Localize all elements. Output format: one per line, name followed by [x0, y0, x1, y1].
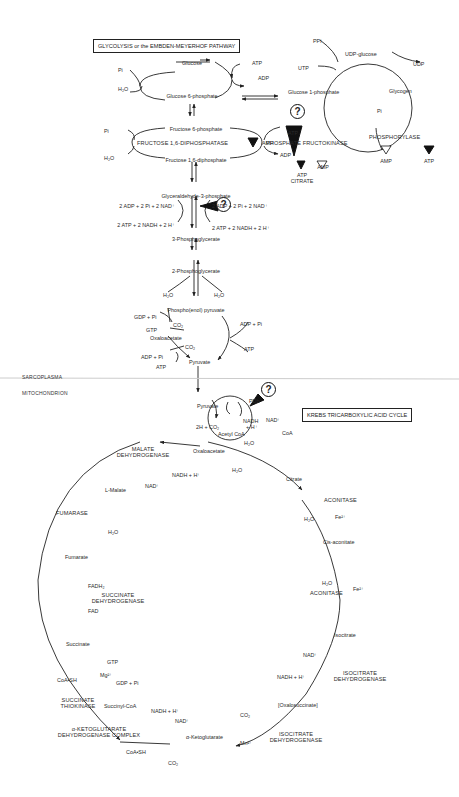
pyruvate-label: Pyruvate [197, 403, 218, 409]
nadh-label: NADH + H⁺ [277, 674, 305, 680]
g1p-label: Glucose 1-phosphate [288, 89, 339, 95]
succinate-thiokinase-enzyme: SUCCINATETHIOKINASE [61, 697, 96, 709]
phosphorylase-activator-amp: AMP [380, 158, 392, 164]
gdp-pi-label: GDP + Pi [116, 680, 139, 686]
h2o-label: H₂O [108, 529, 118, 535]
co2-label: CO₂ [173, 322, 183, 328]
fad-label: FAD [88, 608, 98, 614]
pfk-inhibitor-citrate: CITRATE [291, 178, 314, 184]
phosphorylase-enzyme: PHOSPHORYLASE [369, 134, 420, 140]
2h-co2-label: 2H + CO₂ [196, 424, 219, 430]
udp-label: UDP [413, 61, 424, 67]
fumarase-enzyme: FUMARASE [56, 510, 88, 516]
atp-label: ATP [156, 364, 166, 370]
krebs-title: KREBS TRICARBOXYLIC ACID CYCLE [302, 408, 412, 422]
h2o-label: H₂O [244, 440, 254, 446]
akg-dehydrogenase-enzyme: α-KETOGLUTARATEDEHYDROGENASE COMPLEX [58, 726, 140, 738]
aconitase-enzyme: ACONITASE [310, 590, 343, 596]
succinate-label: Succinate [66, 641, 90, 647]
adp-pi-label: ADP + Pi [141, 354, 163, 360]
l-malate-label: L-Malate [105, 487, 126, 493]
gap-right-out: 2 ATP + 2 NADH + 2 H⁺ [212, 225, 270, 231]
glycogen-label: Glycogen [389, 88, 412, 94]
h2o-label: H₂O [232, 467, 242, 473]
gtp-label: GTP [107, 659, 118, 665]
pyruvate-label: Pyruvate [189, 359, 210, 365]
gap-left-in: 2 ADP + 2 Pi + 2 NAD⁺ [119, 203, 175, 209]
cis-aconitate-label: Cis-aconitate [323, 539, 354, 545]
f6p-label: Fructose 6-phosphate [170, 126, 222, 132]
h2o-label: H₂O [304, 516, 314, 522]
aconitase-enzyme: ACONITASE [324, 497, 357, 503]
isocitrate-dehydrogenase-enzyme: ISOCITRATEDEHYDROGENASE [270, 731, 323, 743]
gap-label: Glyceraldehyde-3-phosphate [161, 193, 230, 199]
pep-label: Phospho(enol) pyruvate [167, 307, 224, 313]
g6p-label: Glucose 6-phosphate [166, 93, 217, 99]
pdh-enzyme: PDh [249, 398, 260, 404]
pi-label: Pi [377, 108, 382, 114]
pi-label: Pi [118, 67, 123, 73]
co2-label: CO₂ [185, 344, 195, 350]
atp-label: ATP [288, 130, 298, 136]
atp-label: ATP [244, 346, 254, 352]
malate-dehydrogenase-enzyme: MALATEDEHYDROGENASE [117, 446, 170, 458]
fe-label: Fe²⁺ [335, 514, 346, 520]
adp-label: ADP [280, 152, 291, 158]
co2-label: CO₂ [168, 760, 178, 766]
fadh2-label: FADH₂ [88, 583, 104, 589]
pfk-activator-amp: AMP [317, 164, 329, 170]
coash-label: CoA•SH [57, 677, 77, 683]
adp-label: ADP [258, 75, 269, 81]
glycolysis-title: GLYCOLYSIS or the EMBDEN-MEYERHOF PATHWA… [93, 39, 240, 53]
nad-label: NAD⁺ [145, 483, 159, 489]
succinate-dehydrogenase-enzyme: SUCCINATEDEHYDROGENASE [92, 592, 145, 604]
h2o-label: H₂O [104, 155, 114, 161]
h-label: + H⁺ [246, 424, 258, 430]
fumarate-label: Fumarate [65, 554, 88, 560]
acetyl-coa-label: Acetyl CoA [218, 431, 245, 437]
mg-label: Mg²⁺ [100, 672, 112, 678]
h2o-label: H₂O [214, 292, 224, 298]
h2o-label: H₂O [163, 292, 173, 298]
isocitrate-label: Isocitrate [334, 632, 356, 638]
nadh-label: NADH + H⁺ [151, 708, 179, 714]
gdp-pi-label: GDP + Pi [134, 314, 157, 320]
oxaloacetate-label: Oxaloacetate [193, 448, 225, 454]
ppi-label: PPi [313, 38, 321, 44]
isocitrate-dehydrogenase-enzyme: ISOCITRATEDEHYDROGENASE [334, 670, 387, 682]
pfk-enzyme: PHOSPHATE FRUCTOKINASE [266, 140, 348, 146]
fdpase-enzyme: FRUCTOSE 1,6-DIPHOSPHATASE [137, 140, 228, 146]
oxalosuccinate-label: [Oxalosuccinate] [278, 702, 318, 708]
gap-right-in: 2 ADP + 2 Pi + 2 NAD⁺ [212, 203, 268, 209]
nad-label: NAD⁺ [175, 718, 189, 724]
h2o-label: H₂O [322, 580, 332, 586]
udp-glucose-label: UDP-glucose [345, 51, 377, 57]
3pg-label: 3-Phosphoglycerate [172, 236, 220, 242]
gap-left-out: 2 ATP + 2 NADH + 2 H⁺ [117, 222, 175, 228]
coash-label: CoA•SH [126, 749, 146, 755]
f16dp-label: Fructose 1,6-diphosphate [165, 157, 226, 163]
citrate-label: Citrate [286, 476, 302, 482]
mitochondrion-label: MITOCHONDRION [22, 390, 68, 396]
co2-label: CO₂ [240, 712, 250, 718]
pi-label: Pi [104, 128, 109, 134]
gtp-label: GTP [146, 327, 157, 333]
nad-label: NAD⁺ [266, 417, 280, 423]
fe-label: Fe²⁺ [353, 586, 364, 592]
2pg-label: 2-Phosphoglycerate [172, 268, 220, 274]
question-mark-icon: ? [290, 104, 305, 119]
oxaloacetate-label: Oxaloacetate [150, 335, 182, 341]
succinyl-coa-label: Succinyl-CoA [104, 703, 136, 709]
atp-label: ATP [252, 60, 262, 66]
question-mark-icon: ? [261, 382, 276, 397]
sarcoplasma-label: SARCOPLASMA [22, 374, 62, 380]
nad-label: NAD⁺ [303, 652, 317, 658]
akg-label: α-Ketoglutarate [186, 734, 223, 740]
utp-label: UTP [298, 65, 309, 71]
h2o-label: H₂O [118, 86, 128, 92]
glucose-label: Glucose [182, 60, 202, 66]
phosphorylase-inhibitor-atp: ATP [424, 158, 434, 164]
adp-pi-label: ADP + Pi [240, 321, 262, 327]
coa-label: CoA [282, 430, 293, 436]
nadh-label: NADH + H⁺ [172, 472, 200, 478]
